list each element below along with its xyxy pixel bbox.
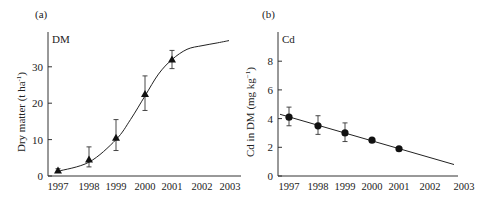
y-tick-label: 30 bbox=[32, 61, 44, 73]
x-tick-label: 1998 bbox=[79, 181, 100, 192]
panel-a-fit-curve bbox=[58, 41, 229, 172]
y-tick-label: 4 bbox=[268, 113, 274, 125]
panel-b-y-ticks: 02468 bbox=[268, 55, 283, 182]
y-tick-label: 2 bbox=[268, 141, 274, 153]
x-tick-label: 1998 bbox=[308, 181, 329, 192]
x-tick-label: 2001 bbox=[162, 181, 183, 192]
circle-marker bbox=[314, 122, 321, 129]
y-tick-label: 6 bbox=[268, 84, 274, 96]
x-tick-label: 1997 bbox=[279, 181, 300, 192]
x-tick-label: 2003 bbox=[454, 181, 475, 192]
panel-b-x-ticks: 1997199819992000200120022003 bbox=[279, 181, 475, 192]
circle-marker bbox=[341, 129, 348, 136]
y-tick-label: 0 bbox=[38, 170, 44, 182]
x-tick-label: 2000 bbox=[135, 181, 156, 192]
x-tick-label: 2002 bbox=[420, 181, 441, 192]
x-tick-label: 1999 bbox=[335, 181, 356, 192]
circle-marker bbox=[368, 137, 375, 144]
triangle-marker bbox=[112, 134, 120, 141]
y-tick-label: 10 bbox=[32, 134, 44, 146]
panel-a-label: (a) bbox=[35, 8, 48, 21]
x-tick-label: 1999 bbox=[106, 181, 127, 192]
panel-a: (a) DM 0102030 1997199819992000200120022… bbox=[15, 8, 241, 192]
panel-b-label: (b) bbox=[262, 8, 275, 21]
panel-a-inner-label: DM bbox=[52, 33, 70, 45]
x-tick-label: 2003 bbox=[220, 181, 241, 192]
x-tick-label: 2000 bbox=[362, 181, 383, 192]
panel-b-inner-label: Cd bbox=[282, 33, 295, 45]
panel-a-data-points bbox=[54, 50, 176, 173]
circle-marker bbox=[285, 114, 292, 121]
panel-a-x-ticks: 1997199819992000200120022003 bbox=[48, 181, 241, 192]
figure: (a) DM 0102030 1997199819992000200120022… bbox=[0, 0, 492, 200]
panel-b: (b) Cd 02468 199719981999200020012002200… bbox=[244, 8, 475, 192]
y-tick-label: 20 bbox=[32, 97, 44, 109]
panel-a-y-axis-title: Dry matter (t ha-1) bbox=[15, 72, 28, 152]
panel-b-data-points bbox=[285, 107, 402, 152]
circle-marker bbox=[395, 145, 402, 152]
y-tick-label: 8 bbox=[268, 55, 274, 67]
x-tick-label: 2002 bbox=[192, 181, 213, 192]
triangle-marker bbox=[54, 167, 62, 174]
triangle-marker bbox=[85, 156, 93, 163]
y-tick-label: 0 bbox=[268, 170, 274, 182]
x-tick-label: 2001 bbox=[389, 181, 410, 192]
x-tick-label: 1997 bbox=[48, 181, 69, 192]
panel-b-y-axis-title: Cd in DM (mg kg−1) bbox=[244, 67, 257, 157]
panel-b-fit-line bbox=[280, 114, 454, 164]
panel-a-y-ticks: 0102030 bbox=[32, 61, 52, 182]
